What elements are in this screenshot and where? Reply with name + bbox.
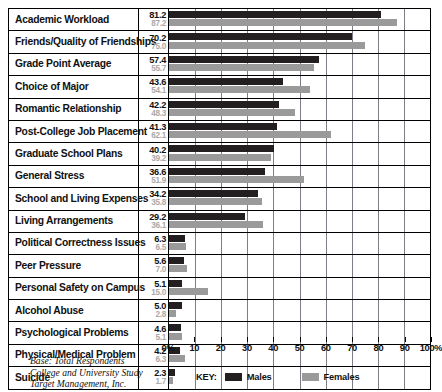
value-label-females: 1.7 bbox=[156, 378, 166, 386]
chart-row: Choice of Major43.654.1 bbox=[8, 76, 431, 98]
gridline bbox=[404, 300, 405, 321]
gridline bbox=[326, 76, 327, 97]
value-label-females: 6.3 bbox=[156, 356, 166, 364]
chart-rows: Academic Workload81.287.2Friends/Quality… bbox=[8, 8, 431, 390]
gridline bbox=[404, 367, 405, 388]
axis-tick bbox=[300, 337, 301, 342]
gridline bbox=[300, 300, 301, 321]
gridline bbox=[300, 255, 301, 276]
gridline bbox=[300, 99, 301, 120]
plot-cell bbox=[168, 76, 431, 97]
gridline bbox=[326, 143, 327, 164]
value-labels-cell: 40.239.2 bbox=[139, 143, 168, 164]
category-cell: Academic Workload bbox=[8, 9, 139, 30]
legend-label-females: Females bbox=[324, 372, 360, 382]
value-labels-cell: 70.275.0 bbox=[139, 31, 168, 52]
value-label-females: 39.2 bbox=[151, 155, 166, 163]
bar-males bbox=[169, 257, 184, 264]
chart-row: Political Correctness Issues6.36.5 bbox=[8, 233, 431, 255]
gridline bbox=[273, 255, 274, 276]
value-label-females: 75.0 bbox=[151, 43, 166, 51]
category-label: Choice of Major bbox=[15, 82, 88, 92]
plot-cell bbox=[168, 143, 431, 164]
bar-males bbox=[169, 11, 381, 18]
gridline bbox=[247, 300, 248, 321]
value-labels-cell: 36.651.9 bbox=[139, 166, 168, 187]
category-label: Living Arrangements bbox=[15, 216, 113, 226]
gridline bbox=[378, 143, 379, 164]
plot-cell bbox=[168, 300, 431, 321]
plot-cell bbox=[168, 278, 431, 299]
category-label: Friends/Quality of Friendships bbox=[15, 37, 156, 47]
category-label: Graduate School Plans bbox=[15, 149, 122, 159]
axis-tick bbox=[378, 337, 379, 342]
value-label-females: 54.1 bbox=[151, 87, 166, 95]
value-labels-cell: 5.115.0 bbox=[139, 278, 168, 299]
category-label: Psychological Problems bbox=[15, 328, 129, 338]
value-labels-cell: 81.287.2 bbox=[139, 9, 168, 30]
value-labels-cell: 41.362.1 bbox=[139, 121, 168, 142]
footnote-line-3: Target Management, Inc. bbox=[30, 378, 143, 390]
axis-tick-label: 10 bbox=[189, 343, 199, 353]
gridline bbox=[300, 143, 301, 164]
category-label: General Stress bbox=[15, 171, 84, 181]
legend-swatch-females-icon bbox=[302, 373, 319, 381]
category-label: Academic Workload bbox=[15, 15, 109, 25]
axis-tick bbox=[194, 337, 195, 342]
gridline bbox=[326, 255, 327, 276]
gridline bbox=[273, 188, 274, 209]
gridline bbox=[404, 121, 405, 142]
category-cell: Choice of Major bbox=[8, 76, 139, 97]
gridline bbox=[326, 188, 327, 209]
axis-tick-label: 100% bbox=[420, 343, 442, 353]
gridline bbox=[404, 54, 405, 75]
chart-row: Academic Workload81.287.2 bbox=[8, 9, 431, 31]
gridline bbox=[326, 166, 327, 187]
bar-males bbox=[169, 168, 265, 175]
gridline bbox=[247, 255, 248, 276]
gridline bbox=[221, 300, 222, 321]
bar-females bbox=[169, 19, 397, 26]
plot-cell bbox=[168, 188, 431, 209]
bar-females bbox=[169, 131, 331, 138]
gridline bbox=[352, 278, 353, 299]
bar-females bbox=[169, 64, 314, 71]
bar-males bbox=[169, 145, 274, 152]
gridline bbox=[247, 278, 248, 299]
gridline bbox=[378, 211, 379, 232]
gridline bbox=[300, 233, 301, 254]
bar-females bbox=[169, 109, 295, 116]
gridline bbox=[221, 255, 222, 276]
gridline bbox=[378, 76, 379, 97]
value-label-females: 48.3 bbox=[151, 110, 166, 118]
footnote-line-1: Base: Total Respondents bbox=[30, 355, 143, 367]
plot-cell bbox=[168, 121, 431, 142]
category-cell: Personal Safety on Campus bbox=[8, 278, 139, 299]
category-label: Alcohol Abuse bbox=[15, 306, 83, 316]
axis-tick bbox=[247, 337, 248, 342]
category-cell: Romantic Relationship bbox=[8, 99, 139, 120]
gridline bbox=[273, 278, 274, 299]
bar-males bbox=[169, 33, 352, 40]
gridline bbox=[352, 54, 353, 75]
bar-males bbox=[169, 324, 181, 331]
plot-cell bbox=[168, 255, 431, 276]
gridline bbox=[273, 233, 274, 254]
value-label-females: 55.7 bbox=[151, 65, 166, 73]
bar-males bbox=[169, 369, 175, 376]
value-labels-cell: 2.31.7 bbox=[139, 367, 168, 388]
category-cell: Living Arrangements bbox=[8, 211, 139, 232]
axis-tick bbox=[405, 337, 406, 342]
gridline bbox=[404, 76, 405, 97]
gridline bbox=[378, 121, 379, 142]
chart-footnote: Base: Total Respondents College and Univ… bbox=[30, 355, 143, 390]
gridline bbox=[195, 233, 196, 254]
gridline bbox=[195, 255, 196, 276]
chart-row: Grade Point Average57.455.7 bbox=[8, 54, 431, 76]
legend-swatch-males-icon bbox=[225, 373, 242, 381]
category-cell: Psychological Problems bbox=[8, 322, 139, 343]
bar-males bbox=[169, 213, 245, 220]
category-label: Personal Safety on Campus bbox=[15, 283, 145, 293]
gridline bbox=[352, 255, 353, 276]
gridline bbox=[378, 166, 379, 187]
